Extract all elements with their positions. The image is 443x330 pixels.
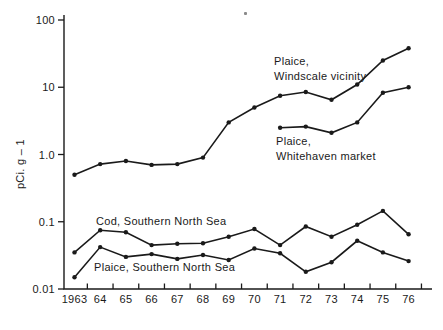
data-point-cod-southern-north-sea <box>381 209 385 213</box>
x-tick-label: 72 <box>299 293 312 305</box>
data-point-cod-southern-north-sea <box>252 227 256 231</box>
axes <box>64 15 432 289</box>
data-point-cod-southern-north-sea <box>227 235 231 239</box>
data-point-plaice-windscale-vicinity <box>72 173 76 177</box>
data-point-cod-southern-north-sea <box>278 243 282 247</box>
data-point-plaice-southern-north-sea <box>201 253 205 257</box>
y-tick-label: 10 <box>42 81 55 93</box>
data-point-plaice-southern-north-sea <box>149 252 153 256</box>
x-tick-label: 71 <box>274 293 287 305</box>
x-tick-label: 1963 <box>62 293 88 305</box>
x-tick-label: 75 <box>376 293 389 305</box>
x-tick-label: 70 <box>248 293 261 305</box>
data-point-plaice-whitehaven-market <box>278 126 282 130</box>
series-label-plaice-whitehaven-market: Plaice, Whitehaven market <box>276 134 376 164</box>
y-axis-label: pCi. g – 1 <box>14 118 28 210</box>
data-point-plaice-whitehaven-market <box>381 91 385 95</box>
data-point-plaice-windscale-vicinity <box>227 120 231 124</box>
data-point-plaice-windscale-vicinity <box>98 162 102 166</box>
series-label-plaice-windscale-vicinity: Plaice, Windscale vicinity <box>274 54 366 84</box>
data-point-cod-southern-north-sea <box>201 241 205 245</box>
data-point-plaice-windscale-vicinity <box>149 163 153 167</box>
x-tick-label: 68 <box>197 293 210 305</box>
data-point-plaice-windscale-vicinity <box>124 159 128 163</box>
x-tick-label: 67 <box>171 293 184 305</box>
x-tick-label: 66 <box>145 293 158 305</box>
stray-mark <box>244 12 247 15</box>
data-point-plaice-windscale-vicinity <box>304 90 308 94</box>
data-point-cod-southern-north-sea <box>149 243 153 247</box>
data-point-plaice-southern-north-sea <box>304 270 308 274</box>
data-point-plaice-windscale-vicinity <box>406 46 410 50</box>
data-point-plaice-southern-north-sea <box>355 239 359 243</box>
data-point-plaice-southern-north-sea <box>124 255 128 259</box>
data-point-plaice-windscale-vicinity <box>175 162 179 166</box>
chart-canvas: 100101.00.10.011963646566676869707172737… <box>0 0 443 330</box>
radioactivity-fish-chart: 100101.00.10.011963646566676869707172737… <box>0 0 443 330</box>
data-point-plaice-windscale-vicinity <box>252 105 256 109</box>
data-point-plaice-windscale-vicinity <box>329 98 333 102</box>
data-point-cod-southern-north-sea <box>175 242 179 246</box>
data-point-cod-southern-north-sea <box>329 235 333 239</box>
data-point-plaice-southern-north-sea <box>329 260 333 264</box>
series-line-plaice-whitehaven-market <box>280 87 409 133</box>
data-point-plaice-southern-north-sea <box>278 251 282 255</box>
data-point-cod-southern-north-sea <box>355 223 359 227</box>
data-point-cod-southern-north-sea <box>406 232 410 236</box>
series-label-plaice-southern-north-sea: Plaice, Southern North Sea <box>94 260 235 275</box>
data-point-cod-southern-north-sea <box>304 224 308 228</box>
data-point-plaice-southern-north-sea <box>381 250 385 254</box>
data-point-cod-southern-north-sea <box>124 230 128 234</box>
data-point-plaice-whitehaven-market <box>304 124 308 128</box>
x-tick-label: 64 <box>94 293 107 305</box>
data-point-plaice-southern-north-sea <box>406 259 410 263</box>
series-label-cod-southern-north-sea: Cod, Southern North Sea <box>96 214 226 229</box>
data-point-plaice-southern-north-sea <box>72 275 76 279</box>
data-point-plaice-whitehaven-market <box>406 85 410 89</box>
data-point-plaice-windscale-vicinity <box>201 155 205 159</box>
x-tick-label: 69 <box>222 293 235 305</box>
y-tick-label: 1.0 <box>39 149 55 161</box>
data-point-plaice-southern-north-sea <box>252 246 256 250</box>
y-tick-label: 0.1 <box>39 216 55 228</box>
data-point-plaice-windscale-vicinity <box>278 94 282 98</box>
data-point-plaice-windscale-vicinity <box>381 58 385 62</box>
data-point-plaice-southern-north-sea <box>98 245 102 249</box>
y-tick-label: 0.01 <box>32 283 55 295</box>
x-tick-label: 76 <box>402 293 415 305</box>
data-point-plaice-whitehaven-market <box>355 120 359 124</box>
y-tick-label: 100 <box>36 14 55 26</box>
data-point-cod-southern-north-sea <box>72 250 76 254</box>
x-tick-label: 74 <box>351 293 364 305</box>
x-tick-label: 73 <box>325 293 338 305</box>
x-tick-label: 65 <box>119 293 132 305</box>
